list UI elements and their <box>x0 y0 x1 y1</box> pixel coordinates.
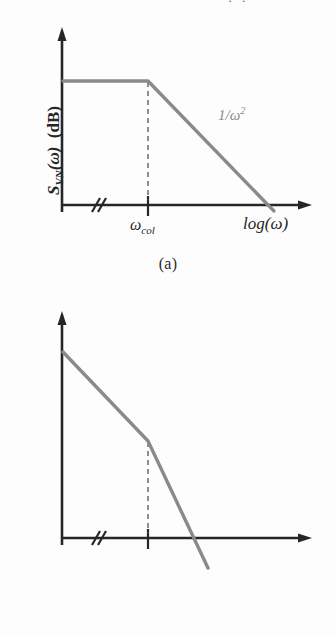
curve-a <box>63 81 268 205</box>
xtick-label-a-main: ω <box>130 216 141 233</box>
panel-b: L{Δω} (dB) ωcol log(Δω) 1/(Δω)2 1/(Δω)4 … <box>0 300 336 635</box>
xtick-label-a-sub: col <box>141 224 154 236</box>
y-axis-b <box>58 311 67 545</box>
y-axis-label-a-sub: VN <box>53 170 65 185</box>
curve-b <box>63 352 208 568</box>
slope-annotation-a-1-exp: 2 <box>240 105 245 116</box>
y-axis-label-a-main: S <box>44 186 63 195</box>
slope-annotation-a-1-text: 1/ω <box>218 107 240 123</box>
y-axis-label-a: SVN(ω) (dB) <box>44 106 65 195</box>
y-axis-label-a-units: (dB) <box>44 106 63 138</box>
y-axis-label-a-arg: (ω) <box>44 147 63 171</box>
panel-a: SVN(ω) (dB) ωcol log(ω) 1/ω2 (a) <box>0 0 336 300</box>
slope-annotation-a-1: 1/ω2 <box>218 105 245 124</box>
x-axis-label-a: log(ω) <box>243 214 288 234</box>
plot-b <box>0 300 336 635</box>
panel-caption-a: (a) <box>0 255 336 273</box>
figure-page: · · <box>0 0 336 635</box>
xtick-label-omega-col-a: ωcol <box>130 216 155 236</box>
